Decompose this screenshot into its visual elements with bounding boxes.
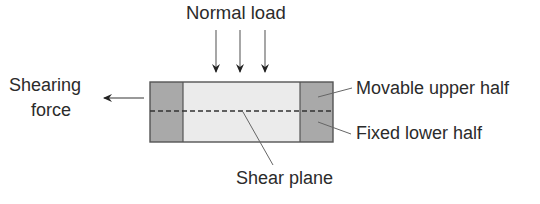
- shearing-force-label-line1: Shearing: [9, 76, 81, 94]
- shear-box: [150, 82, 333, 142]
- left-grey-block: [150, 82, 183, 142]
- fixed-lower-half-label: Fixed lower half: [356, 124, 482, 142]
- shearing-force-label-line2: force: [31, 101, 71, 119]
- normal-load-label: Normal load: [186, 4, 286, 23]
- movable-upper-half-label: Movable upper half: [356, 79, 509, 97]
- shear-plane-label: Shear plane: [236, 169, 333, 187]
- direct-shear-test-diagram: Normal load Shearing force Movable upper…: [0, 0, 540, 204]
- center-soil-sample: [183, 82, 300, 142]
- right-grey-block: [300, 82, 333, 142]
- normal-load-arrows: [216, 30, 265, 72]
